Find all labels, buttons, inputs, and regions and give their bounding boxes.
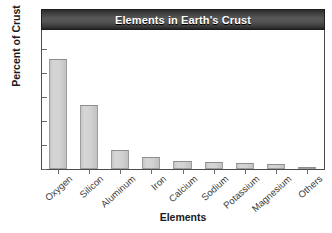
bar-silicon xyxy=(80,31,98,170)
y-tick-mark xyxy=(42,73,47,74)
plot-area xyxy=(41,30,325,170)
y-tick-mark xyxy=(42,169,47,170)
bar-rect xyxy=(173,161,191,169)
chart-title-bar: Elements in Earth's Crust xyxy=(41,9,325,30)
bar-calcium xyxy=(173,31,191,170)
x-tick-mark xyxy=(89,169,90,174)
bar-aluminum xyxy=(111,31,129,170)
y-tick-mark xyxy=(42,145,47,146)
x-tick-mark xyxy=(58,169,59,174)
top-partial-text xyxy=(0,0,332,7)
bar-rect xyxy=(80,105,98,169)
x-tick-mark xyxy=(307,169,308,174)
y-axis-title: Percent of Crust xyxy=(10,0,22,111)
bar-rect xyxy=(111,150,129,169)
bar-others xyxy=(298,31,316,170)
y-tick-mark xyxy=(42,121,47,122)
bar-oxygen xyxy=(49,31,67,170)
bar-iron xyxy=(142,31,160,170)
x-tick-mark xyxy=(214,169,215,174)
bar-magnesium xyxy=(267,31,285,170)
x-tick-mark xyxy=(276,169,277,174)
chart-title: Elements in Earth's Crust xyxy=(115,14,251,26)
x-tick-mark xyxy=(183,169,184,174)
x-axis-title: Elements xyxy=(41,211,325,223)
bar-sodium xyxy=(205,31,223,170)
bar-rect xyxy=(142,157,160,169)
x-tick-mark xyxy=(151,169,152,174)
bar-rect xyxy=(49,59,67,169)
bar-rect xyxy=(205,162,223,169)
bar-potassium xyxy=(236,31,254,170)
chart-figure: Elements in Earth's Crust Percent of Cru… xyxy=(0,0,332,233)
y-tick-mark xyxy=(42,49,47,50)
y-tick-mark xyxy=(42,97,47,98)
x-tick-mark xyxy=(245,169,246,174)
bars-layer xyxy=(42,30,324,169)
x-tick-mark xyxy=(120,169,121,174)
